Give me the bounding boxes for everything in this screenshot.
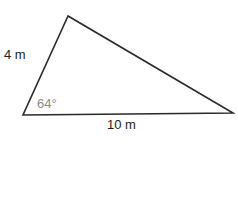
triangle-figure	[0, 0, 238, 211]
bottom-side-length-label: 10 m	[107, 118, 136, 131]
diagram-canvas: 4 m 64° 10 m	[0, 0, 238, 211]
left-side-length-label: 4 m	[4, 48, 26, 61]
angle-label: 64°	[37, 97, 57, 110]
